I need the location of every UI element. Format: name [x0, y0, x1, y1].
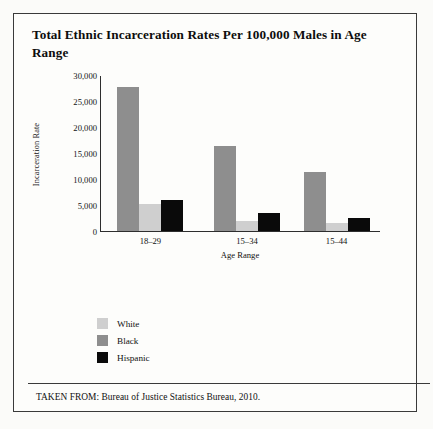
chart-page: Total Ethnic Incarceration Rates Per 100…: [0, 0, 433, 429]
bar-black-15-34[interactable]: [214, 146, 236, 231]
x-tick-18-29: 18–29: [100, 236, 201, 246]
footer-divider: [28, 383, 430, 384]
bar-group-15-44: [293, 77, 380, 231]
x-axis-title: Age Range: [100, 250, 380, 260]
bar-white-15-44[interactable]: [326, 223, 348, 231]
legend-swatch-white-icon: [97, 318, 108, 329]
chart-frame: Total Ethnic Incarceration Rates Per 100…: [13, 13, 417, 412]
y-tick-5000: 5,000: [78, 201, 97, 211]
y-tick-25000: 25,000: [73, 97, 97, 107]
legend-label-white: White: [117, 319, 139, 329]
y-axis-title: Incarceration Rate: [32, 85, 41, 225]
x-axis-line: [100, 231, 380, 232]
legend-label-black: Black: [117, 336, 138, 346]
bar-hispanic-15-34[interactable]: [258, 213, 280, 231]
legend-item-white[interactable]: White: [97, 315, 257, 332]
bar-white-18-29[interactable]: [139, 204, 161, 231]
y-tick-15000: 15,000: [73, 149, 97, 159]
bar-group-18-29: [100, 77, 201, 231]
bar-series-container: [100, 77, 380, 231]
legend: White Black Hispanic: [97, 315, 257, 366]
bar-group-15-34: [201, 77, 293, 231]
legend-swatch-black-icon: [97, 335, 108, 346]
legend-item-hispanic[interactable]: Hispanic: [97, 349, 257, 366]
x-tick-15-44: 15–44: [293, 236, 380, 246]
bar-hispanic-15-44[interactable]: [348, 218, 370, 231]
x-axis-tick-labels: 18–29 15–34 15–44: [100, 236, 380, 246]
legend-label-hispanic: Hispanic: [117, 353, 150, 363]
bar-black-18-29[interactable]: [117, 87, 139, 231]
x-tick-15-34: 15–34: [201, 236, 293, 246]
plot-area: Incarceration Rate 30,000 25,000 20,000 …: [14, 76, 418, 286]
chart-title: Total Ethnic Incarceration Rates Per 100…: [32, 26, 382, 62]
source-note: TAKEN FROM: Bureau of Justice Statistics…: [36, 392, 260, 402]
bar-black-15-44[interactable]: [304, 172, 326, 231]
bar-white-15-34[interactable]: [236, 221, 258, 230]
y-tick-0: 0: [93, 227, 97, 237]
y-tick-20000: 20,000: [73, 123, 97, 133]
y-axis-tick-labels: 30,000 25,000 20,000 15,000 10,000 5,000…: [44, 76, 100, 232]
axes: [100, 76, 380, 232]
legend-item-black[interactable]: Black: [97, 332, 257, 349]
y-tick-10000: 10,000: [73, 175, 97, 185]
bar-hispanic-18-29[interactable]: [161, 200, 183, 231]
legend-swatch-hispanic-icon: [97, 352, 108, 363]
y-tick-30000: 30,000: [73, 71, 97, 81]
